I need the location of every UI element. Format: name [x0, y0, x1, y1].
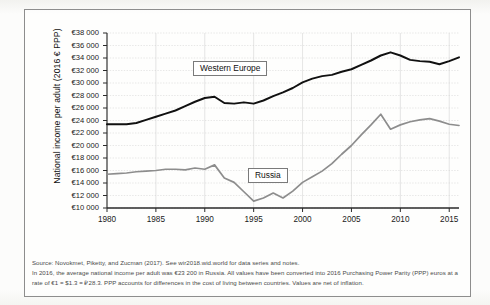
figure-notes: Source: Novokmet, Piketty, and Zucman (2…: [32, 258, 466, 289]
y-axis-tick-label: €12 000: [47, 191, 99, 200]
x-axis-tick-label: 2010: [380, 215, 420, 224]
y-axis-tick-label: €32 000: [47, 66, 99, 75]
y-axis-tick-label: €20 000: [47, 141, 99, 150]
figure-page: National income per adult (2016 € PPP) €…: [0, 0, 490, 305]
y-axis-tick-label: €30 000: [47, 78, 99, 87]
y-axis-tick-label: €38 000: [47, 28, 99, 37]
y-axis-tick-label: €24 000: [47, 116, 99, 125]
series-label-western-europe: Western Europe: [193, 61, 267, 76]
x-axis-tick-label: 1980: [87, 215, 127, 224]
x-axis-tick-label: 2005: [331, 215, 371, 224]
y-axis-tick-label: €14 000: [47, 178, 99, 187]
y-axis-tick-label: €10 000: [47, 203, 99, 212]
y-axis-tick-label: €34 000: [47, 53, 99, 62]
x-axis-tick-label: 1985: [136, 215, 176, 224]
x-axis-tick-label: 1990: [185, 215, 225, 224]
y-axis-tick-label: €22 000: [47, 128, 99, 137]
y-axis-tick-label: €26 000: [47, 103, 99, 112]
y-axis-tick-label: €28 000: [47, 91, 99, 100]
y-axis-tick-label: €36 000: [47, 41, 99, 50]
chart-area: National income per adult (2016 € PPP) €…: [24, 9, 471, 254]
y-axis-tick-label: €16 000: [47, 166, 99, 175]
x-axis-tick-label: 2000: [283, 215, 323, 224]
x-axis-tick-label: 1995: [234, 215, 274, 224]
x-axis-tick-label: 2015: [429, 215, 469, 224]
notes-source-line: Source: Novokmet, Piketty, and Zucman (2…: [32, 258, 466, 268]
y-axis-tick-label: €18 000: [47, 153, 99, 162]
series-label-russia: Russia: [248, 168, 288, 183]
notes-detail-line: In 2016, the average national income per…: [32, 268, 466, 288]
